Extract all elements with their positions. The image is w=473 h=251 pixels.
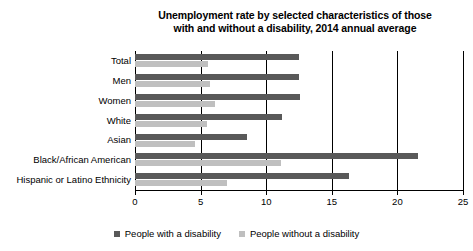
y-axis-label: Men [0, 71, 131, 91]
chart-container: Unemployment rate by selected characteri… [0, 0, 473, 251]
x-axis-tick [266, 190, 267, 195]
y-axis-label: Total [0, 51, 131, 71]
y-axis-label: White [0, 111, 131, 131]
legend-swatch-icon [239, 231, 245, 237]
bar-group [135, 91, 463, 111]
x-axis-tick-label: 15 [312, 196, 352, 207]
y-axis-label: Black/African American [0, 150, 131, 170]
bar-group [135, 130, 463, 150]
x-axis-line [135, 190, 464, 191]
x-axis-tick [201, 190, 202, 195]
bar-group [135, 51, 463, 71]
y-axis-labels: TotalMenWomenWhiteAsianBlack/African Ame… [0, 51, 131, 190]
bar-group [135, 170, 463, 190]
bar [135, 180, 227, 186]
x-axis-tick [397, 190, 398, 195]
bar [135, 114, 282, 120]
bar [135, 101, 215, 107]
legend-swatch-icon [114, 231, 120, 237]
bar [135, 81, 210, 87]
chart-title-line-1: Unemployment rate by selected characteri… [120, 9, 470, 22]
x-axis-tick [332, 190, 333, 195]
y-axis-label: Hispanic or Latino Ethnicity [0, 170, 131, 190]
bar [135, 173, 349, 179]
legend-label: People without a disability [250, 228, 359, 239]
chart-title-line-2: with and without a disability, 2014 annu… [120, 22, 470, 35]
bar [135, 121, 207, 127]
x-axis-tick-label: 10 [246, 196, 286, 207]
plot-area [135, 51, 463, 190]
x-axis-tick [463, 190, 464, 195]
bar-group [135, 111, 463, 131]
gridline [463, 51, 464, 190]
bar-group [135, 71, 463, 91]
x-axis-tick-label: 0 [115, 196, 155, 207]
y-axis-label: Women [0, 91, 131, 111]
chart-title: Unemployment rate by selected characteri… [120, 9, 470, 35]
chart-legend: People with a disabilityPeople without a… [0, 228, 473, 239]
bar [135, 94, 300, 100]
bar [135, 134, 247, 140]
legend-label: People with a disability [125, 228, 221, 239]
bar-group [135, 150, 463, 170]
x-axis-tick [135, 190, 136, 195]
bar [135, 160, 281, 166]
x-axis-tick-label: 25 [443, 196, 473, 207]
bar [135, 141, 195, 147]
bar [135, 74, 299, 80]
bar [135, 153, 418, 159]
legend-item: People without a disability [239, 228, 359, 239]
bar [135, 61, 208, 67]
y-axis-label: Asian [0, 130, 131, 150]
bar [135, 54, 299, 60]
x-axis-tick-label: 20 [377, 196, 417, 207]
x-axis-tick-label: 5 [181, 196, 221, 207]
legend-item: People with a disability [114, 228, 221, 239]
